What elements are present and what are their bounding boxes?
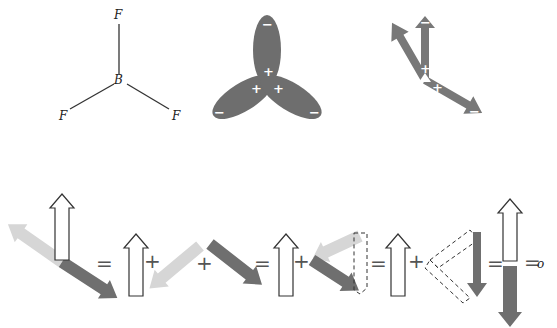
atom-f-top: F bbox=[113, 8, 123, 22]
lobe-top-outer-sign: − bbox=[262, 17, 273, 32]
hollow-up-arrow-4 bbox=[386, 234, 410, 296]
final-dark-down-arrow bbox=[498, 266, 522, 327]
operator-equals-1: = bbox=[96, 251, 113, 275]
operator-equals-3: = bbox=[370, 251, 387, 275]
bf3-structure: F B F F bbox=[58, 8, 181, 123]
lobe-right-inner-sign: + bbox=[273, 81, 284, 96]
dipole-right-tail-sign: + bbox=[432, 80, 443, 95]
dipole-up-tail-sign: + bbox=[420, 61, 431, 76]
dipole-left-tail-sign: + bbox=[408, 80, 419, 95]
dark-arrow bbox=[56, 253, 123, 307]
orbital-lobes: − + + + − − bbox=[206, 15, 328, 127]
dipole-arrows: − + + + − − bbox=[373, 15, 487, 122]
result-zero: o bbox=[537, 257, 544, 271]
dipole-left-head-sign: − bbox=[373, 104, 384, 119]
atom-f-left: F bbox=[58, 109, 68, 123]
operator-plus-2: + bbox=[196, 251, 213, 275]
dark-arrow-3 bbox=[306, 251, 365, 300]
atom-f-right: F bbox=[171, 109, 181, 123]
dark-down-arrow bbox=[467, 232, 487, 297]
lobe-right-outer-sign: − bbox=[309, 105, 320, 120]
dipole-up-head-sign: − bbox=[420, 15, 431, 30]
lobe-top-inner-sign: + bbox=[263, 64, 274, 79]
operator-equals-4: = bbox=[487, 251, 504, 275]
bond-left bbox=[70, 84, 114, 109]
lobe-left-inner-sign: + bbox=[251, 81, 262, 96]
operator-plus-1: + bbox=[144, 249, 161, 273]
atom-b: B bbox=[113, 73, 123, 87]
projection-group-1 bbox=[306, 226, 367, 300]
projection-group-2 bbox=[425, 230, 487, 303]
dipole-right-head-sign: − bbox=[469, 104, 480, 119]
operator-plus-3: + bbox=[293, 249, 310, 273]
bond-right bbox=[127, 84, 169, 109]
dashed-arrow-upper bbox=[430, 230, 478, 268]
dashed-arrow-lower bbox=[425, 260, 470, 303]
lobe-left-outer-sign: − bbox=[214, 105, 225, 120]
bf3-dipole-diagram: F B F F − + + + − − − + + + − − bbox=[0, 0, 557, 328]
operator-equals-2: = bbox=[254, 251, 271, 275]
operator-plus-4: + bbox=[408, 249, 425, 273]
